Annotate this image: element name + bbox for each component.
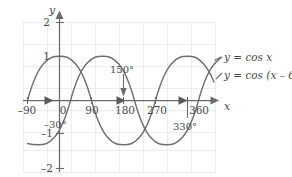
axes (23, 11, 219, 173)
x-tick-label-360: 360 (189, 104, 209, 116)
y-tick-label-2: 2 (43, 16, 50, 28)
chart-figure: 2 1 –1 –2 –90 0 90 180 270 360 –30° 150°… (0, 0, 292, 177)
x-axis-label: x (224, 100, 231, 113)
x-tick-label-180: 180 (115, 104, 135, 116)
annotation-150-pointer (120, 74, 126, 97)
annotation-label-330: 330° (173, 121, 197, 132)
x-tick-label-0: 0 (60, 104, 67, 116)
marker-330 (179, 96, 188, 104)
annotation-label-150: 150° (110, 64, 134, 75)
leader-line-cos-x-minus-60 (216, 73, 222, 79)
series-label-cos-x-minus-60: y = cos (x – 60) (223, 69, 292, 81)
annotation-label-minus-30: –30° (44, 119, 67, 130)
cosine-graph-plot: 2 1 –1 –2 –90 0 90 180 270 360 –30° 150°… (0, 0, 292, 177)
x-tick-label-minus-90: –90 (18, 104, 37, 116)
x-tick-label-90: 90 (85, 104, 98, 116)
y-axis-label: y (48, 4, 56, 17)
x-axis-arrowhead (211, 97, 220, 105)
y-tick-label-1: 1 (43, 50, 50, 62)
y-tick-label-minus-2: –2 (41, 162, 53, 174)
y-axis-arrowhead (56, 11, 64, 20)
marker-minus-30 (45, 96, 54, 104)
x-tick-label-270: 270 (147, 104, 167, 116)
series-label-cos-x: y = cos x (223, 51, 272, 63)
